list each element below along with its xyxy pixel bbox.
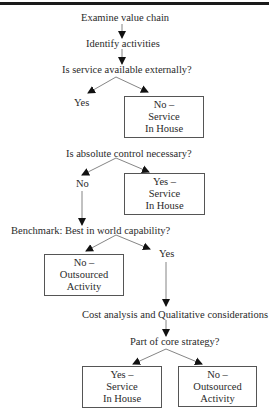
box-line-1: Yes – bbox=[153, 176, 176, 188]
node-question-benchmark: Benchmark: Best in world capability? bbox=[11, 225, 170, 237]
box-line-3: In House bbox=[145, 123, 183, 135]
box-line-3: Activity bbox=[67, 281, 101, 293]
node-q3-yes: Yes bbox=[159, 248, 174, 260]
box-line-1: No – bbox=[74, 257, 95, 269]
node-question-core-strategy: Part of core strategy? bbox=[130, 336, 220, 348]
node-q2-no: No bbox=[76, 178, 89, 190]
node-examine-value-chain: Examine value chain bbox=[81, 12, 169, 24]
box-line-1: No – bbox=[154, 99, 175, 111]
box-line-3: Activity bbox=[200, 393, 234, 405]
box-line-2: Outsourced bbox=[60, 269, 108, 281]
box-line-3: In House bbox=[145, 200, 183, 212]
node-q4-yes-service-in-house: Yes – Service In House bbox=[82, 366, 162, 408]
box-line-2: Outsourced bbox=[193, 381, 241, 393]
node-identify-activities: Identify activities bbox=[86, 38, 160, 50]
box-line-1: Yes – bbox=[110, 369, 133, 381]
node-cost-analysis: Cost analysis and Qualitative considerat… bbox=[82, 309, 268, 321]
node-q2-yes-service-in-house: Yes – Service In House bbox=[124, 173, 205, 215]
node-q1-no-service-in-house: No – Service In House bbox=[124, 96, 204, 138]
node-question-available-externally: Is service available externally? bbox=[62, 64, 192, 76]
node-q1-yes: Yes bbox=[74, 97, 89, 109]
box-line-2: Service bbox=[106, 381, 138, 393]
box-line-2: Service bbox=[148, 111, 180, 123]
node-q4-no-outsourced-activity: No – Outsourced Activity bbox=[178, 366, 257, 407]
box-line-1: No – bbox=[207, 369, 228, 381]
box-line-3: In House bbox=[103, 393, 141, 405]
node-q3-no-outsourced-activity: No – Outsourced Activity bbox=[44, 254, 124, 296]
node-question-absolute-control: Is absolute control necessary? bbox=[66, 148, 192, 160]
box-line-2: Service bbox=[149, 188, 181, 200]
